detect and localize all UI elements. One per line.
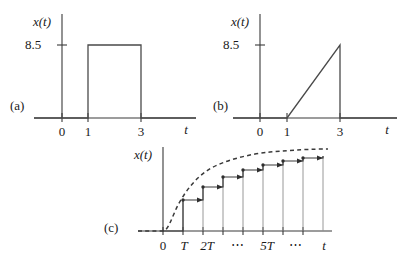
- panel-caption-b: (b): [213, 98, 228, 113]
- x-tick-label-c-ellipsis-2: ⋯: [289, 237, 303, 252]
- y-tick-label-a: 8.5: [25, 37, 41, 52]
- panel-caption-c: (c): [104, 220, 118, 235]
- stair-arrow-5: [277, 162, 283, 167]
- stair-arrow-2: [217, 184, 223, 189]
- stair-arrow-4: [257, 167, 263, 172]
- sample-dot-4: [241, 168, 244, 171]
- chart-panel-c: (c): [100, 133, 345, 267]
- x-tick-label-c-2T: 2T: [200, 238, 215, 253]
- chart-panel-a: (a) x(t) 8.5 0 1 3 t: [0, 0, 205, 138]
- y-axis-label-c: x(t): [133, 147, 152, 162]
- x-tick-label-a-0: 0: [59, 124, 66, 139]
- stair-arrow-1: [197, 197, 203, 202]
- x-tick-label-c-0: 0: [160, 238, 167, 253]
- figure-root: (a) x(t) 8.5 0 1 3 t (b): [0, 0, 410, 267]
- y-axis-label-a: x(t): [32, 14, 51, 29]
- stair-arrow-3: [237, 174, 243, 179]
- sample-dot-2: [201, 185, 204, 188]
- signal-curve-b: [233, 45, 397, 118]
- y-axis-label-b: x(t): [230, 14, 249, 29]
- x-tick-label-c-5T: 5T: [260, 238, 275, 253]
- y-tick-label-b: 8.5: [223, 37, 239, 52]
- x-axis-label-b: t: [385, 122, 389, 137]
- chart-panel-b: (b) x(t) 8.5 0 1 3 t: [205, 0, 410, 138]
- sample-dot-1: [181, 198, 184, 201]
- stair-arrow-7: [317, 155, 323, 160]
- signal-curve-a: [34, 45, 196, 118]
- sample-dot-7: [301, 156, 304, 159]
- x-tick-label-c-ellipsis-1: ⋯: [231, 237, 245, 252]
- sample-dot-3: [221, 175, 224, 178]
- x-axis-label-c: t: [322, 238, 326, 253]
- x-tick-label-a-1: 1: [85, 124, 92, 139]
- x-tick-label-c-T: T: [180, 238, 188, 253]
- panel-caption-a: (a): [10, 98, 24, 113]
- sample-dot-6: [281, 159, 284, 162]
- sample-dot-5: [261, 163, 264, 166]
